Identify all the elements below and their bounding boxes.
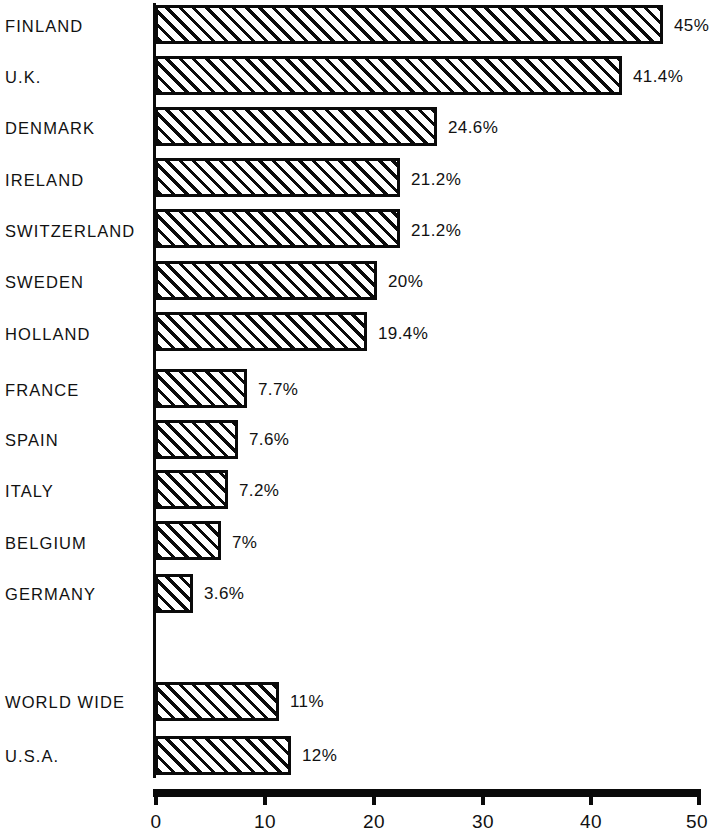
x-axis-tick-label-40: 40: [580, 812, 602, 831]
value-label-sweden: 20%: [388, 273, 423, 290]
value-label-france: 7.7%: [258, 381, 298, 398]
x-axis-tick-40: [589, 789, 593, 805]
x-axis-tick-label-10: 10: [254, 812, 276, 831]
value-label-finland: 45%: [674, 17, 709, 34]
x-axis-tick-20: [372, 789, 376, 805]
category-label-germany: GERMANY: [5, 586, 96, 603]
x-axis-tick-label-0: 0: [150, 812, 161, 831]
category-label-world-wide: WORLD WIDE: [5, 694, 125, 711]
value-label-belgium: 7%: [232, 534, 257, 551]
category-label-uk: U.K.: [5, 69, 42, 86]
bar-finland: [155, 5, 663, 44]
category-label-finland: FINLAND: [5, 18, 83, 35]
category-label-france: FRANCE: [5, 382, 79, 399]
bar-italy: [155, 470, 228, 509]
category-label-italy: ITALY: [5, 483, 54, 500]
x-axis-tick-30: [481, 789, 485, 805]
bar-belgium: [155, 521, 221, 560]
category-label-holland: HOLLAND: [5, 326, 91, 343]
value-label-germany: 3.6%: [204, 585, 244, 602]
bar-france: [155, 369, 247, 408]
bar-world-wide: [155, 682, 279, 721]
value-label-italy: 7.2%: [239, 482, 279, 499]
x-axis-tick-10: [263, 789, 267, 805]
category-label-belgium: BELGIUM: [5, 535, 87, 552]
bar-uk: [155, 56, 622, 95]
y-axis-line: [153, 3, 156, 778]
x-axis-tick-50: [697, 789, 701, 805]
bar-germany: [155, 574, 193, 613]
bar-sweden: [155, 261, 377, 300]
bar-switzerland: [155, 209, 400, 248]
category-label-usa: U.S.A.: [5, 748, 59, 765]
category-label-spain: SPAIN: [5, 432, 59, 449]
value-label-world-wide: 11%: [290, 693, 324, 710]
value-label-ireland: 21.2%: [411, 171, 461, 188]
value-label-holland: 19.4%: [378, 325, 428, 342]
value-label-spain: 7.6%: [249, 431, 289, 448]
category-label-switzerland: SWITZERLAND: [5, 223, 135, 240]
category-label-ireland: IRELAND: [5, 172, 84, 189]
x-axis-tick-0: [154, 789, 158, 805]
bar-holland: [155, 312, 367, 351]
x-axis-tick-label-20: 20: [363, 812, 385, 831]
bar-usa: [155, 736, 291, 775]
x-axis-tick-label-50: 50: [686, 812, 708, 831]
value-label-switzerland: 21.2%: [411, 222, 461, 239]
value-label-usa: 12%: [302, 747, 337, 764]
value-label-denmark: 24.6%: [448, 119, 498, 136]
category-label-sweden: SWEDEN: [5, 274, 84, 291]
bar-denmark: [155, 107, 437, 146]
value-label-uk: 41.4%: [633, 68, 683, 85]
x-axis-tick-label-30: 30: [472, 812, 494, 831]
category-label-denmark: DENMARK: [5, 120, 95, 137]
bar-chart: FINLAND U.K. DENMARK IRELAND SWITZERLAND…: [0, 0, 710, 840]
x-axis-bar: [153, 789, 701, 797]
bar-ireland: [155, 158, 400, 197]
bar-spain: [155, 420, 238, 459]
